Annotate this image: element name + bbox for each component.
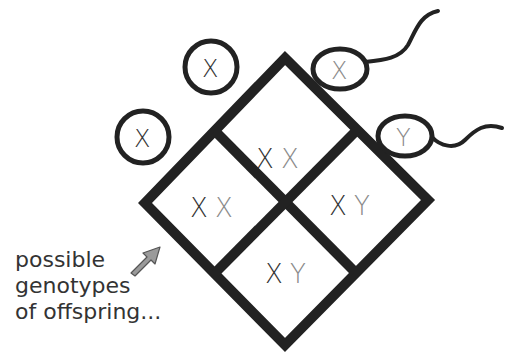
egg-2-allele: X xyxy=(134,125,150,153)
offspring-caption: possible genotypes of offspring... xyxy=(15,247,161,325)
cell-bottom-paternal: Y xyxy=(290,259,306,289)
sperm-gamete-x: X xyxy=(313,11,438,89)
cell-right-maternal: X xyxy=(329,191,347,221)
egg-gamete-2: X xyxy=(117,111,169,163)
cell-top-paternal: X xyxy=(281,144,299,174)
caption-line-1: possible xyxy=(15,247,161,273)
punnett-square-grid xyxy=(145,58,428,345)
cell-top-maternal: X xyxy=(256,144,274,174)
cell-left-maternal: X xyxy=(190,193,208,223)
cell-left-paternal: X xyxy=(215,193,233,223)
sperm-y-allele: Y xyxy=(396,124,411,152)
caption-line-2: genotypes xyxy=(15,273,161,299)
sperm-gamete-y: Y xyxy=(378,116,502,156)
cell-right-paternal: Y xyxy=(354,191,370,221)
cell-bottom-maternal: X xyxy=(265,259,283,289)
sperm-x-allele: X xyxy=(331,57,347,85)
caption-line-3: of offspring... xyxy=(15,299,161,325)
egg-1-allele: X xyxy=(202,55,218,83)
egg-gamete-1: X xyxy=(185,41,237,93)
